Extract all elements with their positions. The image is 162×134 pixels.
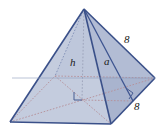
- pyramid-illustration: [0, 0, 162, 134]
- label-slant-height-a: a: [104, 56, 110, 67]
- label-base-edge-length: 8: [134, 101, 140, 112]
- pyramid-figure: h a 8 8: [0, 0, 162, 134]
- label-lateral-edge-length: 8: [124, 34, 130, 45]
- label-height-h: h: [70, 57, 76, 68]
